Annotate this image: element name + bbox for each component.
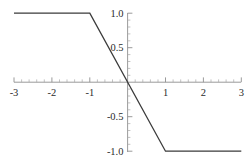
x-tick-label-2: 2 xyxy=(201,87,206,98)
y-tick-label-neg1: -1.0 xyxy=(107,146,124,157)
plot-figure: -3 -2 -1 1 2 3 1.0 0.5 -0.5 -1.0 xyxy=(0,0,250,168)
y-tick-label-1: 1.0 xyxy=(110,8,123,19)
plot-canvas: -3 -2 -1 1 2 3 1.0 0.5 -0.5 -1.0 xyxy=(0,0,250,168)
x-tick-label-1: 1 xyxy=(163,87,168,98)
x-tick-label-neg3: -3 xyxy=(10,87,19,98)
plot-background xyxy=(0,0,250,168)
x-tick-label-neg2: -2 xyxy=(48,87,57,98)
y-tick-label-05: 0.5 xyxy=(110,42,123,53)
x-tick-label-3: 3 xyxy=(239,87,244,98)
y-tick-label-neg05: -0.5 xyxy=(107,111,124,122)
x-tick-label-neg1: -1 xyxy=(85,87,94,98)
